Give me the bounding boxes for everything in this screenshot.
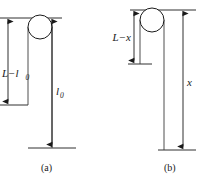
panel-b-right-label: x [186, 76, 192, 88]
panel-b-caption: (b) [164, 162, 176, 174]
panel-b-pulley-circle [140, 8, 164, 32]
panel-a-right-label: l 0 [56, 85, 64, 100]
panel-a-left-label-subscript: 0 [26, 73, 30, 82]
panel-a: L−l 0 l 0 (a) [0, 15, 76, 174]
panel-a-pulley-circle [28, 15, 52, 39]
panel-b: L−x x (b) [112, 8, 196, 174]
panel-a-left-label: L−l 0 [1, 67, 30, 82]
panel-a-left-label-base: L−l [1, 67, 19, 79]
panel-a-right-label-subscript: 0 [60, 91, 64, 100]
panel-b-left-label: L−x [112, 31, 132, 43]
panel-a-right-label-base: l [56, 85, 59, 97]
diagram-canvas: L−l 0 l 0 (a) L−x [0, 0, 200, 179]
physics-diagram-figure: L−l 0 l 0 (a) L−x [0, 0, 200, 179]
panel-a-caption: (a) [41, 162, 52, 174]
